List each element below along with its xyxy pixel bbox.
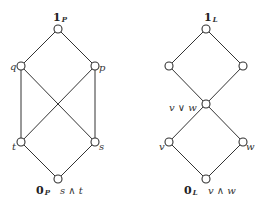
node-v	[165, 138, 173, 146]
node-a	[165, 62, 173, 70]
node-extra-label-0L: v ∧ w	[208, 185, 236, 196]
node-b	[239, 62, 247, 70]
node-1L	[202, 25, 210, 33]
node-label-0P: 0P	[36, 184, 51, 197]
node-label-vjw: v ∨ w	[169, 102, 197, 113]
edge-w-0L	[206, 142, 243, 179]
edge-1P-q	[21, 29, 58, 66]
edge-1L-a	[169, 29, 206, 66]
node-label-t: t	[12, 141, 17, 152]
node-label-q: q	[10, 61, 16, 72]
edge-1L-b	[206, 29, 243, 66]
edge-a-vjw	[169, 66, 206, 104]
lattice-P: 1Pqpts0Ps ∧ t	[10, 11, 106, 197]
node-extra-label-0P: s ∧ t	[60, 185, 84, 196]
edge-s-0P	[58, 142, 95, 179]
node-0L	[202, 175, 210, 183]
node-1P	[54, 25, 62, 33]
edge-1P-p	[58, 29, 95, 66]
node-label-1P: 1P	[53, 11, 68, 24]
node-p	[91, 62, 99, 70]
node-label-p: p	[99, 62, 106, 73]
edge-v-0L	[169, 142, 206, 179]
lattice-L: 1Lv ∨ wvw0Lv ∧ w	[159, 11, 255, 197]
node-0P	[54, 175, 62, 183]
node-label-1L: 1L	[204, 11, 218, 24]
node-s	[91, 138, 99, 146]
node-t	[17, 138, 25, 146]
lattice-diagrams: 1Pqpts0Ps ∧ t 1Lv ∨ wvw0Lv ∧ w	[0, 0, 263, 205]
node-vjw	[202, 100, 210, 108]
node-label-w: w	[246, 141, 255, 152]
node-q	[17, 62, 25, 70]
edge-vjw-w	[206, 104, 243, 142]
node-label-s: s	[99, 141, 104, 152]
edge-t-0P	[21, 142, 58, 179]
node-label-v: v	[159, 141, 165, 152]
node-label-0L: 0L	[184, 184, 198, 197]
edge-b-vjw	[206, 66, 243, 104]
